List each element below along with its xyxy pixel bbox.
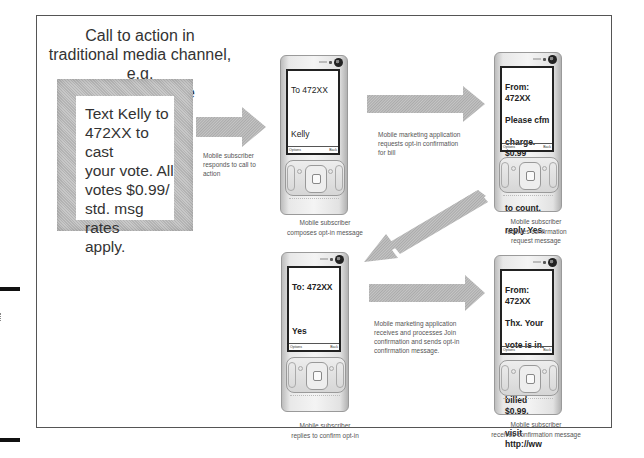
poster-line: apply. <box>85 237 174 256</box>
softkey-right: Back <box>543 144 551 150</box>
caption-line: confirmation and sends opt-in <box>374 337 459 346</box>
poster-line: your vote. All <box>85 161 174 180</box>
caption-line: Mobile subscriber <box>203 151 256 160</box>
softkey-right: Back <box>329 147 337 153</box>
camera-icon <box>335 255 344 264</box>
phone-screen: From: 472XX Thx. Your vote is in. You've… <box>500 269 554 355</box>
screen-line: From: 472XX <box>505 82 550 104</box>
page-edge-dots <box>0 313 3 321</box>
caption-line: action <box>203 169 256 178</box>
phone-confirmation-request: From: 472XX Please cfm charge. $0.99 for… <box>494 52 562 212</box>
screen-text: To 472XX Kelly <box>291 74 336 151</box>
arrow-right-icon <box>367 86 487 122</box>
dpad-icon <box>306 362 328 390</box>
caption-line: Mobile subscriber <box>480 217 592 227</box>
tv-poster: Text Kelly to 472XX to cast your vote. A… <box>57 79 193 231</box>
softkey-left: Options <box>289 147 301 153</box>
softkey-left: Options <box>290 344 302 350</box>
phone-confirmation-received: From: 472XX Thx. Your vote is in. You've… <box>494 255 562 415</box>
caption-line: Mobile marketing application <box>378 130 460 139</box>
page-edge-mark-bottom <box>0 438 20 442</box>
softkey-left: Options <box>503 144 515 150</box>
phone-caption-4: Mobile subscriber receives confirmation … <box>476 420 596 439</box>
phone-reply-optin: To: 472XX Yes OptionsBack <box>281 252 349 412</box>
caption-line: Mobile subscriber <box>270 218 380 228</box>
caption-line: confirmation message. <box>374 346 459 355</box>
keypad <box>286 357 346 393</box>
softkeys: OptionsBack <box>288 146 338 153</box>
softkey-right: Back <box>543 347 551 353</box>
dpad-icon <box>519 365 541 393</box>
cta-title-line: Call to action in <box>40 26 240 45</box>
arrow-caption-2: Mobile marketing application requests op… <box>378 130 460 157</box>
caption-line: replies to confirm opt-in <box>270 431 380 441</box>
softkeys: OptionsBack <box>289 343 339 350</box>
softkeys: OptionsBack <box>502 143 552 150</box>
softkey-right: Back <box>330 344 338 350</box>
caption-line: requests opt-in confirmation <box>378 139 460 148</box>
caption-line: receives confirmation <box>480 227 592 237</box>
screen-text: To: 472XX Yes <box>292 271 337 348</box>
caption-line: responds to call to <box>203 160 256 169</box>
phone-caption-3: Mobile subscriber replies to confirm opt… <box>270 421 380 440</box>
screen-line: To 472XX <box>291 85 336 96</box>
screen-line: Kelly <box>291 129 336 140</box>
page-edge-mark-top <box>0 287 20 291</box>
camera-icon <box>334 58 343 67</box>
keypad <box>499 157 559 193</box>
phone-screen: To 472XX Kelly OptionsBack <box>286 69 340 155</box>
screen-line: From: 472XX <box>505 285 550 307</box>
phone-screen: To: 472XX Yes OptionsBack <box>287 266 341 352</box>
poster-line: 472XX to cast <box>85 123 174 161</box>
phone-caption-1: Mobile subscriber composes opt-in messag… <box>270 218 380 237</box>
camera-icon <box>548 55 557 64</box>
poster-line: votes $0.99/ <box>85 180 174 199</box>
dpad-icon <box>305 165 327 193</box>
dpad-icon <box>519 162 541 190</box>
poster-line: std. msg rates <box>85 199 174 237</box>
camera-icon <box>548 258 557 267</box>
caption-line: receives confirmation message <box>476 430 596 440</box>
arrow-right-icon <box>369 275 487 311</box>
poster-line: Text Kelly to <box>85 104 174 123</box>
softkey-left: Options <box>503 347 515 353</box>
softkeys: OptionsBack <box>502 346 552 353</box>
keypad <box>285 160 345 196</box>
caption-line: composes opt-in message <box>270 228 380 238</box>
arrow-caption-4: Mobile marketing application receives an… <box>374 319 459 355</box>
keypad <box>499 360 559 396</box>
screen-line: To: 472XX <box>292 282 337 293</box>
phone-screen: From: 472XX Please cfm charge. $0.99 for… <box>500 66 554 152</box>
cta-title-line: traditional media channel, e.g. <box>40 45 240 83</box>
phone-compose-optin: To 472XX Kelly OptionsBack <box>280 55 348 215</box>
caption-line: Mobile subscriber <box>270 421 380 431</box>
arrow-right-icon <box>196 107 268 147</box>
screen-line: Please cfm <box>505 115 550 126</box>
caption-line: Mobile marketing application <box>374 319 459 328</box>
screen-line: Thx. Your <box>505 318 550 329</box>
screen-line: Yes <box>292 326 337 337</box>
caption-line: request message <box>480 236 592 246</box>
phone-caption-2: Mobile subscriber receives confirmation … <box>480 217 592 246</box>
caption-line: receives and processes Join <box>374 328 459 337</box>
caption-line: for bill <box>378 148 460 157</box>
arrow-caption-1: Mobile subscriber responds to call to ac… <box>203 151 256 178</box>
poster-text: Text Kelly to 472XX to cast your vote. A… <box>76 96 174 220</box>
caption-line: Mobile subscriber <box>476 420 596 430</box>
